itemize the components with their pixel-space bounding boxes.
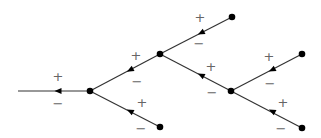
signed-tree-diagram: +−+−+−+−+−+−+− (0, 0, 321, 138)
plus-sign-label: + (264, 49, 275, 64)
labels-group: +−+−+−+−+−+−+− (53, 10, 289, 136)
node-leaf2 (299, 51, 306, 58)
edge-B-root (90, 54, 160, 91)
node-leaf1 (229, 14, 236, 21)
arrowhead-icon (55, 88, 62, 94)
node-root (87, 88, 94, 95)
plus-sign-label: + (53, 69, 64, 84)
plus-sign-label: + (278, 95, 289, 110)
arrowhead-icon (269, 66, 277, 72)
edge-leaf3-C (231, 91, 302, 128)
minus-sign-label: − (276, 121, 287, 136)
node-leaf4 (157, 124, 164, 131)
minus-sign-label: − (265, 76, 276, 91)
node-C (228, 88, 235, 95)
plus-sign-label: + (195, 10, 206, 25)
minus-sign-label: − (194, 36, 205, 51)
minus-sign-label: − (136, 121, 147, 136)
arrowhead-icon (127, 109, 135, 115)
plus-sign-label: + (131, 48, 142, 63)
minus-sign-label: − (53, 96, 64, 111)
arrows-group (55, 29, 277, 116)
plus-sign-label: + (137, 95, 148, 110)
minus-sign-label: − (132, 74, 143, 89)
node-B (157, 51, 164, 58)
node-leaf3 (299, 125, 306, 132)
edge-C-B (160, 54, 231, 91)
plus-sign-label: + (206, 59, 217, 74)
edge-leaf4-root (90, 91, 160, 127)
arrowhead-icon (198, 73, 206, 79)
minus-sign-label: − (207, 85, 218, 100)
